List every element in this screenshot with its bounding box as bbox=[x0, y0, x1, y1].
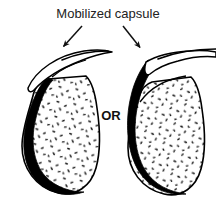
or-connector-label: OR bbox=[101, 108, 121, 123]
arrow-left-shaft bbox=[64, 26, 83, 47]
arrow-right bbox=[123, 26, 140, 48]
organ-left bbox=[22, 50, 112, 194]
arrow-left bbox=[64, 26, 83, 47]
organ-right bbox=[128, 49, 216, 195]
page-title: Mobilized capsule bbox=[56, 6, 159, 21]
arrow-right-shaft bbox=[123, 26, 140, 48]
illustration-canvas: Mobilized capsule bbox=[0, 0, 216, 203]
figure-container: Mobilized capsule bbox=[0, 0, 216, 203]
organ-right-capsule-flap bbox=[145, 51, 216, 75]
